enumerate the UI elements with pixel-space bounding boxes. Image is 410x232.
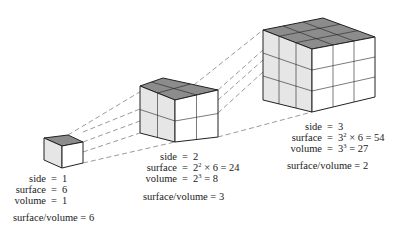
surface-label: surface [284, 132, 322, 143]
medium-cube [140, 78, 218, 142]
side-label: side [18, 173, 46, 184]
equals-sign: = [177, 151, 193, 162]
medium-cube-stats: side=2 surface=22 × 6 = 24 volume=23 = 8 [139, 151, 240, 184]
volume-label: volume [12, 195, 46, 206]
volume-label: volume [284, 143, 322, 154]
large-cube-stats: side=3 surface=32 × 6 = 54 volume=33 = 2… [284, 121, 385, 154]
equals-sign: = [46, 184, 62, 195]
volume-value: 33 = 27 [338, 143, 368, 154]
surface-label: surface [139, 162, 177, 173]
equals-sign: = [322, 132, 338, 143]
equals-sign: = [322, 143, 338, 154]
equals-sign: = [46, 195, 62, 206]
equals-sign: = [322, 121, 338, 132]
equals-sign: = [46, 173, 62, 184]
surface-label: surface [12, 184, 46, 195]
volume-value: 1 [62, 195, 67, 206]
surface-value: 6 [62, 184, 67, 195]
small-cube [44, 135, 83, 168]
surface-volume-diagram: side=1 surface=6 volume=1 surface/volume… [0, 0, 410, 232]
small-cube-ratio: surface/volume = 6 [13, 212, 94, 223]
volume-value: 23 = 8 [193, 173, 218, 184]
side-value: 1 [62, 173, 67, 184]
equals-sign: = [177, 173, 193, 184]
side-label: side [139, 151, 177, 162]
large-cube [263, 18, 375, 112]
equals-sign: = [177, 162, 193, 173]
side-label: side [284, 121, 322, 132]
volume-label: volume [139, 173, 177, 184]
large-cube-ratio: surface/volume = 2 [287, 160, 368, 171]
medium-cube-ratio: surface/volume = 3 [143, 191, 224, 202]
small-cube-stats: side=1 surface=6 volume=1 [18, 173, 67, 206]
